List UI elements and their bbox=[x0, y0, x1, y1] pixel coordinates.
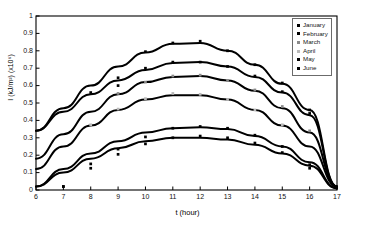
legend-item-label: April bbox=[303, 47, 315, 56]
x-tick-label: 10 bbox=[136, 193, 154, 200]
legend-marker-square-icon bbox=[295, 57, 301, 63]
x-tick-label: 7 bbox=[54, 193, 72, 200]
legend-marker-square-icon bbox=[295, 65, 301, 71]
x-tick-label: 11 bbox=[164, 193, 182, 200]
y-tick-label: 0.9 bbox=[2, 29, 33, 36]
legend-item[interactable]: May bbox=[295, 55, 328, 64]
x-tick-label: 16 bbox=[301, 193, 319, 200]
x-tick-label: 8 bbox=[82, 193, 100, 200]
x-tick-label: 14 bbox=[246, 193, 264, 200]
y-tick-label: 1 bbox=[2, 12, 33, 19]
x-tick-label: 15 bbox=[273, 193, 291, 200]
y-tick-label: 0.5 bbox=[2, 99, 33, 106]
chart-legend: JanuaryFebruaryMarchAprilMayJune bbox=[292, 18, 332, 76]
legend-marker-square-icon bbox=[295, 39, 301, 45]
x-tick-label: 13 bbox=[219, 193, 237, 200]
legend-item-label: May bbox=[303, 55, 315, 64]
chart-figure: I (kJ/m²) (x10⁶) t (hour) JanuaryFebruar… bbox=[0, 0, 375, 234]
legend-item-label: June bbox=[303, 64, 316, 73]
legend-marker-square-icon bbox=[295, 31, 301, 37]
y-tick-label: 0.7 bbox=[2, 64, 33, 71]
y-tick-label: 0.4 bbox=[2, 116, 33, 123]
legend-marker-square-icon bbox=[295, 22, 301, 28]
legend-item[interactable]: January bbox=[295, 21, 328, 30]
y-tick-label: 0.8 bbox=[2, 47, 33, 54]
x-tick-label: 6 bbox=[27, 193, 45, 200]
y-tick-label: 0.3 bbox=[2, 134, 33, 141]
legend-marker-square-icon bbox=[295, 48, 301, 54]
y-tick-label: 0.1 bbox=[2, 168, 33, 175]
legend-item-label: March bbox=[303, 38, 320, 47]
x-tick-label: 9 bbox=[109, 193, 127, 200]
x-axis-label: t (hour) bbox=[0, 208, 375, 217]
legend-item[interactable]: June bbox=[295, 64, 328, 73]
legend-item[interactable]: February bbox=[295, 30, 328, 39]
y-tick-label: 0.6 bbox=[2, 81, 33, 88]
legend-item[interactable]: March bbox=[295, 38, 328, 47]
legend-item[interactable]: April bbox=[295, 47, 328, 56]
y-tick-label: 0.2 bbox=[2, 151, 33, 158]
legend-item-label: February bbox=[303, 30, 328, 39]
x-tick-label: 17 bbox=[328, 193, 346, 200]
x-tick-label: 12 bbox=[191, 193, 209, 200]
y-tick-label: 0 bbox=[2, 186, 33, 193]
legend-item-label: January bbox=[303, 21, 325, 30]
